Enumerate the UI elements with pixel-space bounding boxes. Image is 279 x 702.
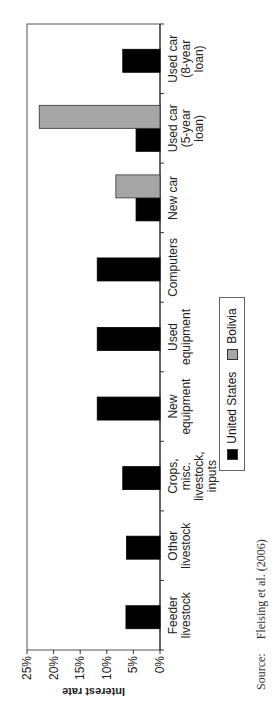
category-label: Otherlivestock — [166, 522, 193, 569]
category-label: Feederlivestock — [166, 591, 193, 638]
source-label: Source: — [254, 653, 268, 690]
y-axis-ticks: 0%5%10%15%20%25% — [20, 650, 167, 680]
y-tick-label: 15% — [73, 656, 87, 680]
category-label: New car — [166, 176, 180, 220]
bar-united-states — [126, 606, 160, 629]
source-note: Source:Fleising et al. (2006) — [254, 525, 269, 690]
bar-united-states — [126, 536, 160, 559]
category-label: Computers — [166, 238, 180, 297]
category-label: Newequipment — [166, 378, 193, 435]
bar-united-states — [136, 128, 160, 151]
bar-united-states — [97, 397, 160, 420]
bar-united-states — [97, 328, 160, 351]
y-tick-label: 0% — [153, 656, 167, 674]
bar-united-states — [136, 198, 160, 221]
legend-item-bolivia: Bolivia — [225, 308, 239, 359]
y-axis-title-text: Interest rate — [62, 686, 125, 698]
source-text: Fleising et al. (2006) — [254, 539, 268, 639]
bar-united-states — [123, 49, 160, 72]
category-label: Used car(8-yearloan) — [166, 35, 206, 83]
y-axis-title: Interest rate — [62, 686, 125, 698]
legend: United States Bolivia — [219, 297, 245, 471]
bar-united-states — [97, 258, 160, 281]
category-labels: FeederlivestockOtherlivestockCrops,misc.… — [166, 35, 219, 638]
y-tick-label: 25% — [20, 656, 34, 680]
y-tick-label: 10% — [100, 656, 114, 680]
bar-united-states — [123, 467, 160, 490]
y-tick-label: 5% — [126, 656, 140, 674]
plot-area — [27, 24, 164, 650]
legend-label-united-states: United States — [225, 372, 239, 444]
legend-swatch-bolivia — [227, 349, 238, 360]
legend-swatch-united-states — [227, 449, 238, 460]
legend-item-united-states: United States — [225, 372, 239, 460]
category-label: Usedequipment — [166, 308, 193, 365]
y-tick-label: 20% — [47, 656, 61, 680]
chart-figure: Interest rate 0%5%10%15%20%25% Feederliv… — [0, 0, 279, 702]
legend-label-bolivia: Bolivia — [225, 308, 239, 343]
bar-bolivia — [39, 105, 160, 128]
category-label: Used car(5-yearloan) — [166, 104, 206, 152]
category-label: Crops,misc.livestock,inputs — [166, 451, 219, 500]
bar-bolivia — [116, 175, 160, 198]
